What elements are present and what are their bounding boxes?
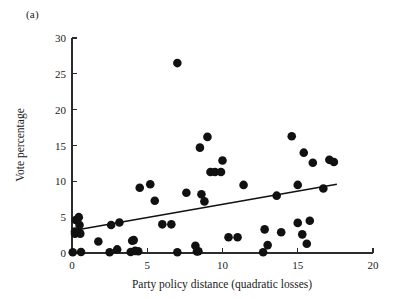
data-point bbox=[194, 247, 203, 256]
y-axis: 051015202530 bbox=[55, 32, 77, 259]
data-point-group bbox=[68, 59, 338, 257]
data-point bbox=[196, 143, 205, 152]
x-tick-label: 0 bbox=[69, 259, 75, 271]
data-point bbox=[173, 248, 182, 257]
y-tick-label: 0 bbox=[61, 247, 67, 259]
data-point bbox=[302, 239, 311, 248]
data-point bbox=[173, 59, 182, 68]
y-tick-label: 5 bbox=[61, 211, 67, 223]
data-point bbox=[135, 183, 144, 192]
y-tick-label: 30 bbox=[55, 32, 67, 44]
data-point bbox=[293, 181, 302, 190]
data-point bbox=[113, 245, 122, 254]
data-point bbox=[105, 248, 114, 257]
x-tick-label: 20 bbox=[368, 259, 380, 271]
x-tick-label: 10 bbox=[217, 259, 229, 271]
data-point bbox=[146, 180, 155, 189]
data-point bbox=[259, 248, 268, 257]
data-point bbox=[129, 236, 138, 245]
data-point bbox=[217, 168, 226, 177]
x-axis-tick-labels: 05101520 bbox=[69, 259, 379, 271]
data-point bbox=[150, 196, 159, 205]
data-point bbox=[233, 233, 242, 242]
data-point bbox=[305, 216, 314, 225]
data-point bbox=[200, 197, 209, 206]
scatter-plot: 051015202530 05101520 Party policy dista… bbox=[0, 0, 399, 299]
data-point bbox=[94, 237, 103, 246]
data-point bbox=[224, 233, 233, 242]
data-point bbox=[74, 213, 83, 222]
data-point bbox=[309, 158, 318, 167]
y-axis-tick-labels: 051015202530 bbox=[55, 32, 67, 259]
x-axis-title: Party policy distance (quadratic losses) bbox=[132, 278, 312, 291]
x-tick-label: 5 bbox=[145, 259, 151, 271]
data-point bbox=[260, 225, 269, 234]
panel-label: (a) bbox=[26, 8, 39, 20]
figure-panel: (a) 051015202530 05101520 Party policy d… bbox=[0, 0, 399, 299]
data-point bbox=[77, 248, 86, 257]
y-tick-label: 15 bbox=[55, 140, 67, 152]
data-point bbox=[293, 219, 302, 228]
y-axis-title: Vote percentage bbox=[14, 108, 27, 182]
data-point bbox=[330, 158, 339, 167]
data-point bbox=[287, 132, 296, 141]
data-point bbox=[218, 156, 227, 165]
y-tick-label: 25 bbox=[55, 68, 67, 80]
data-point bbox=[182, 189, 191, 198]
data-point bbox=[263, 241, 272, 250]
data-point bbox=[75, 221, 84, 230]
data-point bbox=[299, 148, 308, 157]
data-point bbox=[298, 230, 307, 239]
data-point bbox=[277, 228, 286, 237]
data-point bbox=[167, 220, 176, 229]
y-tick-label: 20 bbox=[55, 104, 67, 116]
data-point bbox=[68, 248, 77, 257]
y-tick-label: 10 bbox=[55, 175, 67, 187]
data-point bbox=[134, 247, 143, 256]
data-point bbox=[239, 181, 248, 190]
x-tick-label: 15 bbox=[292, 259, 304, 271]
data-point bbox=[203, 133, 212, 142]
data-point bbox=[158, 220, 167, 229]
